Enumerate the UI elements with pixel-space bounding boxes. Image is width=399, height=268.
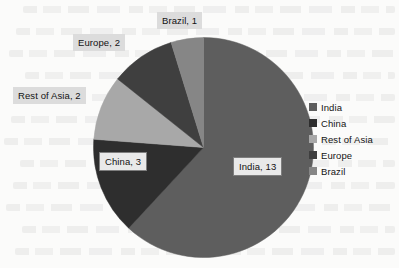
legend-swatch-europe (309, 151, 317, 159)
pie-slice-group (94, 38, 314, 258)
legend-label-china: China (321, 118, 346, 129)
legend-item-china[interactable]: China (309, 115, 395, 131)
pie-svg (93, 37, 314, 258)
legend-label-europe: Europe (321, 150, 352, 161)
legend-item-india[interactable]: India (309, 99, 395, 115)
data-label-europe: Europe, 2 (73, 34, 125, 51)
legend-label-brazil: Brazil (321, 166, 345, 177)
legend-label-india: India (321, 102, 342, 113)
pie-plot-area (93, 37, 314, 258)
legend-item-rest-of-asia[interactable]: Rest of Asia (309, 131, 395, 147)
legend-swatch-brazil (309, 167, 317, 175)
data-label-rest-of-asia: Rest of Asia, 2 (13, 87, 86, 104)
chart-legend: IndiaChinaRest of AsiaEuropeBrazil (309, 99, 395, 179)
legend-swatch-india (309, 103, 317, 111)
data-label-brazil: Brazil, 1 (157, 12, 202, 29)
pie-chart: Brazil, 1 Europe, 2 Rest of Asia, 2 Chin… (0, 0, 399, 268)
legend-swatch-rest-of-asia (309, 135, 317, 143)
legend-swatch-china (309, 119, 317, 127)
data-label-india: India, 13 (233, 157, 282, 176)
legend-item-brazil[interactable]: Brazil (309, 163, 395, 179)
legend-label-rest-of-asia: Rest of Asia (321, 134, 373, 145)
legend-item-europe[interactable]: Europe (309, 147, 395, 163)
data-label-china: China, 3 (99, 152, 147, 171)
